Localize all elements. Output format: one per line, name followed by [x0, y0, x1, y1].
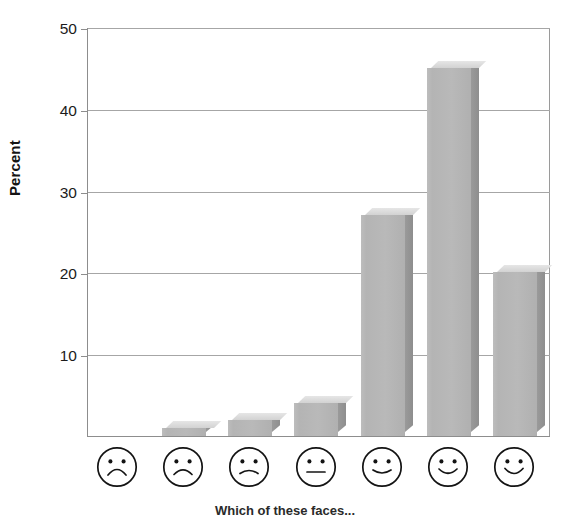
y-tick-mark-30	[81, 193, 88, 194]
plot-area: 1020304050	[87, 28, 550, 437]
bar-front-face	[228, 420, 272, 436]
bar-front-face	[294, 403, 338, 436]
bar-slot-2	[154, 28, 220, 436]
bar-front-face	[427, 68, 471, 436]
bar-unhappy-face	[162, 428, 206, 436]
face-1-frown-deep-icon	[95, 445, 139, 489]
bar-slot-4	[286, 28, 352, 436]
bar-top-face	[232, 413, 287, 420]
face-2-frown-icon	[161, 445, 205, 489]
face-4-neutral-icon	[294, 445, 338, 489]
y-tick-mark-20	[81, 274, 88, 275]
y-tick-mark-50	[81, 29, 88, 30]
bar-top-face	[365, 208, 420, 215]
bar-neutral-face	[294, 403, 338, 436]
y-tick-mark-10	[81, 356, 88, 357]
bar-slot-3	[220, 28, 286, 436]
bar-side-face	[405, 208, 413, 432]
y-tick-label-30: 30	[60, 184, 77, 202]
face-7-smile-wide-icon	[492, 445, 536, 489]
bar-series	[88, 28, 550, 436]
bar-top-face	[166, 421, 221, 428]
bar-side-face	[537, 266, 545, 432]
bar-top-face	[431, 61, 486, 68]
face-5-smile-slight-icon	[360, 445, 404, 489]
bar-slot-7	[485, 28, 551, 436]
face-3-frown-slight-icon	[227, 445, 271, 489]
bar-top-face	[298, 396, 353, 403]
bar-slightly-happy-face	[361, 215, 405, 436]
y-axis-title: Percent	[6, 76, 23, 196]
bar-slot-1	[88, 28, 154, 436]
y-tick-label-40: 40	[60, 102, 77, 120]
bar-very-happy-face	[493, 272, 537, 436]
bar-happy-face	[427, 68, 471, 436]
bar-front-face	[493, 272, 537, 436]
bar-chart: Percent 1020304050 Which of these faces.…	[0, 0, 570, 517]
y-tick-label-50: 50	[60, 20, 77, 38]
bar-top-face	[497, 265, 552, 272]
bar-front-face	[361, 215, 405, 436]
bar-front-face	[162, 428, 206, 436]
x-axis-face-labels	[87, 443, 550, 497]
bar-slightly-unhappy-face	[228, 420, 272, 436]
bar-slot-5	[353, 28, 419, 436]
bar-side-face	[471, 61, 479, 432]
bar-slot-6	[419, 28, 485, 436]
face-6-smile-icon	[426, 445, 470, 489]
y-tick-label-10: 10	[60, 347, 77, 365]
y-tick-mark-40	[81, 111, 88, 112]
x-axis-title: Which of these faces...	[0, 503, 570, 517]
y-tick-label-20: 20	[60, 265, 77, 283]
